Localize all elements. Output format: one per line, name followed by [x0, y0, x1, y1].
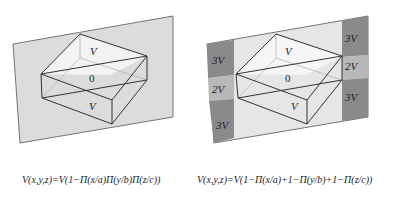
left-label-middle: 0 — [89, 72, 95, 84]
right-label-right-bottom: 3V — [344, 91, 359, 103]
right-label-left-bottom: 3V — [215, 119, 230, 131]
left-equation: V(x,y,z)=V(1−Π(x/a)Π(y/b)Π(z/c)) — [22, 174, 160, 185]
right-label-right-top: 3V — [344, 32, 359, 44]
left-diagram: V 0 V — [13, 16, 173, 143]
right-label-left-mid: 2V — [212, 83, 226, 95]
diagram-canvas: V 0 V — [0, 0, 395, 198]
right-label-left-top: 3V — [211, 54, 226, 66]
right-diagram: V 0 V 3V 2V 3V 3V 2V 3V — [207, 16, 368, 143]
right-equation: V(x,y,z)=V(1−Π(x/a)+1−Π(y/b)+1−Π(z/c)) — [197, 174, 372, 185]
right-label-middle: 0 — [285, 72, 291, 84]
right-label-right-mid: 2V — [345, 60, 359, 72]
